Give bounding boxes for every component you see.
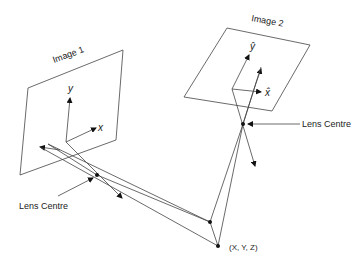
- image-2-label: Image 2: [251, 13, 285, 28]
- image-2-y-label: ŷ: [249, 41, 256, 52]
- world-point-label: (X, Y, Z): [229, 243, 258, 252]
- stereo-diagram: Image 1 y x Lens Centre Image 2 ŷ x̂ L: [0, 0, 364, 267]
- x-axis-arrow-icon: [66, 128, 96, 142]
- lens-centre-1-pointer-icon: [58, 178, 93, 196]
- world-point: (X, Y, Z): [208, 220, 258, 252]
- x-hat-axis-arrow-icon: [232, 89, 261, 92]
- y-axis-arrow-icon: [66, 98, 70, 142]
- image-1-axes: y x: [66, 83, 104, 142]
- y-hat-axis-arrow-icon: [232, 55, 249, 89]
- image-1-x-label: x: [97, 122, 104, 133]
- image-2-plane: Image 2: [184, 13, 310, 111]
- lens-centre-1-label: Lens Centre: [19, 201, 68, 211]
- lens-centre-1-point: [95, 173, 99, 177]
- image-2-axes: ŷ x̂: [232, 41, 271, 98]
- image-2-x-label: x̂: [264, 87, 271, 98]
- lens-centre-2-point: [241, 122, 245, 126]
- image-1-y-label: y: [67, 83, 74, 94]
- intermediate-point: [208, 220, 212, 224]
- xyz-point: [216, 244, 220, 248]
- rays-camera-2: [210, 67, 261, 246]
- image-1-label: Image 1: [51, 44, 85, 65]
- lens-centre-2-label: Lens Centre: [302, 119, 351, 129]
